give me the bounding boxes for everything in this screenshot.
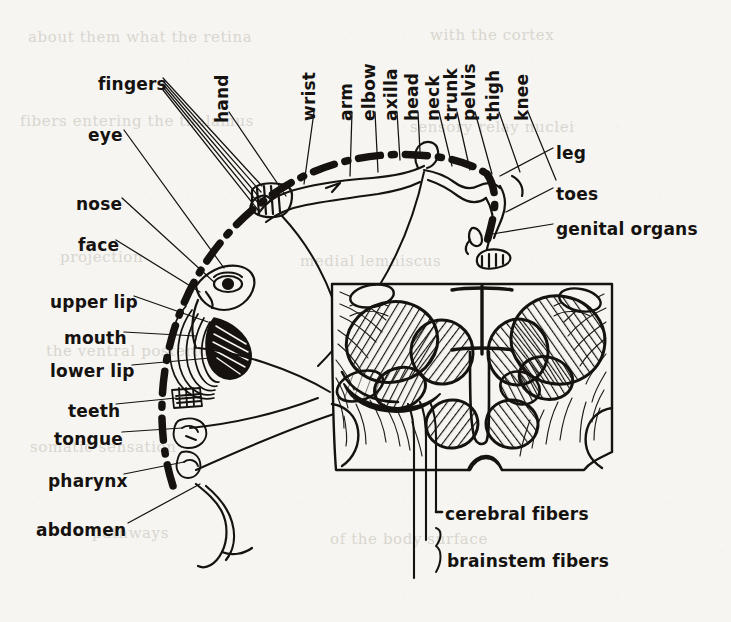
label-eye: eye: [88, 127, 123, 144]
label-trunk: trunk: [443, 68, 460, 121]
label-pelvis: pelvis: [461, 63, 478, 121]
figure-page: about them what the retinawith the corte…: [0, 0, 731, 622]
label-wrist: wrist: [301, 72, 318, 121]
label-pharynx: pharynx: [48, 473, 128, 490]
label-fingers: fingers: [98, 76, 167, 93]
label-cerebral-fibers: cerebral fibers: [445, 506, 589, 523]
label-axilla: axilla: [383, 68, 400, 121]
label-face: face: [78, 237, 119, 254]
label-thigh: thigh: [485, 70, 502, 121]
label-leg: leg: [556, 145, 586, 162]
label-toes: toes: [556, 186, 598, 203]
label-nose: nose: [76, 196, 122, 213]
label-teeth: teeth: [68, 403, 120, 420]
label-tongue: tongue: [54, 431, 123, 448]
label-elbow: elbow: [361, 63, 378, 121]
label-head: head: [404, 73, 421, 121]
label-upper-lip: upper lip: [50, 294, 138, 311]
label-knee: knee: [514, 74, 531, 121]
label-hand: hand: [214, 74, 231, 123]
label-genital-organs: genital organs: [556, 221, 698, 238]
label-brainstem-fibers: brainstem fibers: [447, 553, 609, 570]
label-lower-lip: lower lip: [50, 363, 135, 380]
mouth-cavity: [206, 318, 251, 379]
label-neck: neck: [425, 75, 442, 121]
label-abdomen: abdomen: [36, 522, 126, 539]
label-mouth: mouth: [64, 330, 127, 347]
label-arm: arm: [338, 83, 355, 121]
